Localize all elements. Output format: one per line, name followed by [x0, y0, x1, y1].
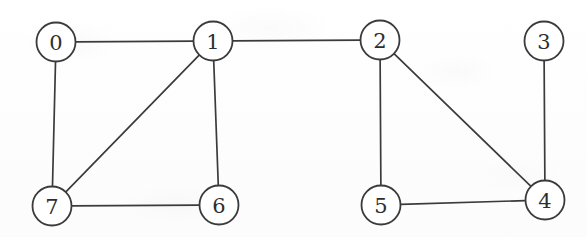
graph-edge-1-7 — [66, 55, 200, 192]
node-label-1: 1 — [206, 30, 219, 54]
graph-node-7: 7 — [33, 187, 72, 226]
graph-edge-1-6 — [214, 60, 219, 185]
node-label-0: 0 — [49, 31, 62, 55]
edge-layer — [52, 40, 544, 206]
graph-figure: 01234567 — [0, 0, 587, 237]
graph-node-6: 6 — [200, 186, 239, 225]
graph-node-1: 1 — [194, 22, 233, 61]
graph-edge-3-4 — [544, 61, 545, 181]
graph-node-3: 3 — [525, 22, 564, 61]
node-label-5: 5 — [374, 194, 387, 218]
node-label-6: 6 — [212, 194, 225, 218]
graph-node-5: 5 — [362, 186, 401, 225]
graph-edge-2-4 — [394, 54, 531, 187]
graph-node-0: 0 — [37, 23, 76, 62]
graph-edge-0-1 — [76, 41, 194, 42]
graph-node-2: 2 — [361, 21, 400, 60]
graph-edge-6-7 — [72, 205, 200, 206]
node-label-3: 3 — [537, 30, 550, 54]
graph-edge-1-2 — [233, 40, 361, 41]
graph-node-4: 4 — [526, 181, 565, 220]
graph-edge-0-7 — [52, 61, 55, 186]
graph-canvas: 01234567 — [0, 0, 587, 237]
node-layer: 01234567 — [33, 21, 565, 226]
node-label-2: 2 — [373, 29, 386, 53]
graph-edge-2-5 — [380, 60, 381, 186]
graph-edge-4-5 — [400, 201, 525, 205]
node-label-4: 4 — [538, 189, 551, 213]
node-label-7: 7 — [45, 195, 58, 219]
